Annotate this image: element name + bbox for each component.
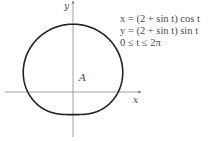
parameter-range: 0 ≤ t ≤ 2π: [120, 37, 161, 48]
region-label: A: [78, 72, 86, 83]
equation-y: y = (2 + sin t) sin t: [120, 25, 198, 37]
x-axis-label: x: [133, 95, 138, 105]
equation-x: x = (2 + sin t) cos t: [120, 13, 200, 25]
parametric-curve-diagram: y x A x = (2 + sin t) cos t y = (2 + sin…: [0, 0, 213, 141]
y-axis-label: y: [63, 1, 70, 11]
